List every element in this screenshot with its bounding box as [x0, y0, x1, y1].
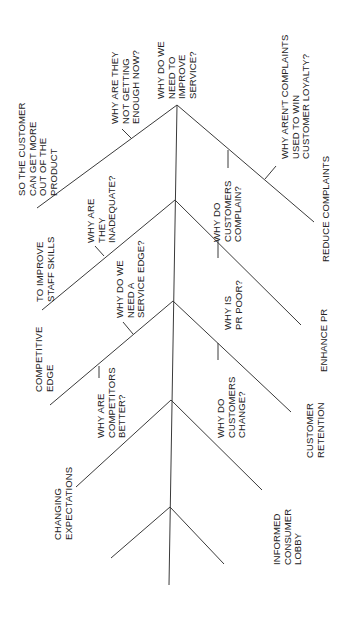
- label-a-changing-expectations: CHANGING EXPECTATIONS: [53, 467, 74, 540]
- label-a-get-more: SO THE CUSTOMER CAN GET MORE OUT OF THE …: [17, 102, 59, 196]
- label-q-competitors-better: WHY ARE COMPETITORS BETTER?: [96, 367, 128, 438]
- label-q-not-enough: WHY ARE THEY NOT GETTING ENOUGH NOW?: [110, 50, 142, 124]
- branch-5-right: [170, 507, 224, 564]
- label-q-pr-poor: WHY IS PR POOR?: [223, 280, 244, 330]
- label-a-competitive-edge: COMPETITIVE EDGE: [34, 327, 55, 393]
- tick-not-enough: [122, 129, 132, 139]
- label-q-complaints-loyalty: WHY AREN'T COMPLAINTS USED TO WIN CUSTOM…: [280, 35, 312, 159]
- label-a-reduce-complaints: REDUCE COMPLAINTS: [321, 156, 332, 262]
- label-q-customers-complain: WHY DO CUSTOMERS COMPLAIN?: [212, 181, 244, 242]
- label-a-informed-lobby: INFORMED CONSUMER LOBBY: [272, 509, 304, 565]
- label-q-customers-change: WHY DO CUSTOMERS CHANGE?: [216, 377, 248, 438]
- tick-inadequate: [95, 246, 104, 256]
- why-why-diagram: WHY DO WE NEED TO IMPROVE SERVICE? WHY A…: [0, 0, 349, 626]
- label-q-inadequate: WHY ARE THEY INADEQUATE?: [86, 176, 118, 243]
- label-a-customer-retention: CUSTOMER RETENTION: [305, 402, 326, 458]
- label-q-service-edge: WHY DO WE NEED A SERVICE EDGE?: [115, 240, 147, 318]
- label-root-question: WHY DO WE NEED TO IMPROVE SERVICE?: [156, 41, 198, 99]
- label-a-staff-skills: TO IMPROVE STAFF SKILLS: [35, 237, 56, 302]
- tick-complaints-loyalty: [265, 166, 276, 179]
- tick-service-edge: [123, 322, 133, 334]
- label-a-enhance-pr: ENHANCE PR: [319, 309, 330, 372]
- branch-5-left: [111, 507, 170, 558]
